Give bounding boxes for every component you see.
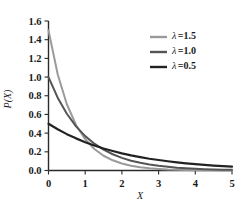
x-tick-label: 2 bbox=[119, 178, 124, 189]
legend-label: λ=0.5 bbox=[171, 60, 196, 71]
y-tick-label: 1.0 bbox=[28, 72, 41, 83]
x-axis-title: X bbox=[136, 190, 144, 201]
legend-label: λ=1.0 bbox=[171, 45, 196, 56]
x-tick-label: 5 bbox=[229, 178, 234, 189]
x-tick-label: 4 bbox=[193, 178, 199, 189]
x-tick-label: 1 bbox=[83, 178, 88, 189]
y-tick-label: 1.6 bbox=[28, 16, 41, 27]
exponential-pdf-chart: 0.00.20.40.60.81.01.21.41.6 012345 X P(X… bbox=[0, 0, 250, 214]
y-tick-label: 0.0 bbox=[28, 165, 41, 176]
y-tick-label: 0.2 bbox=[28, 146, 41, 157]
legend-label: λ=1.5 bbox=[171, 30, 196, 41]
x-axis-ticks: 012345 bbox=[46, 171, 235, 189]
y-axis-title: P(X) bbox=[2, 89, 14, 110]
x-tick-label: 3 bbox=[156, 178, 161, 189]
y-tick-label: 0.4 bbox=[28, 128, 42, 139]
y-tick-label: 0.6 bbox=[28, 109, 41, 120]
y-axis-ticks: 0.00.20.40.60.81.01.21.41.6 bbox=[28, 16, 48, 177]
y-tick-label: 1.4 bbox=[28, 34, 42, 45]
y-tick-label: 1.2 bbox=[28, 53, 41, 64]
curve-series-group bbox=[49, 30, 233, 170]
chart-canvas: 0.00.20.40.60.81.01.21.41.6 012345 X P(X… bbox=[0, 0, 250, 214]
curve-series bbox=[49, 30, 233, 170]
legend: λ=1.5λ=1.0λ=0.5 bbox=[150, 30, 196, 71]
y-tick-label: 0.8 bbox=[28, 90, 41, 101]
curve-series bbox=[49, 124, 233, 167]
x-tick-label: 0 bbox=[46, 178, 51, 189]
